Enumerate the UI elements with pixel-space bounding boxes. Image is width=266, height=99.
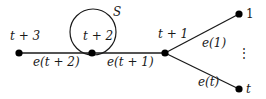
node-leaf-t xyxy=(235,85,242,92)
node-t-plus-3 xyxy=(15,49,22,56)
node-label-leaf-t: t xyxy=(246,82,251,96)
edge-label-e-t-plus-2: e(t + 2) xyxy=(33,55,80,69)
node-label-t-plus-1: t + 1 xyxy=(158,27,188,41)
edge-label-e-t-plus-1: e(t + 1) xyxy=(107,55,154,69)
node-label-t-plus-2: t + 2 xyxy=(83,29,113,43)
node-t-plus-1 xyxy=(161,49,168,56)
set-s-label: S xyxy=(113,5,121,19)
node-leaf-1 xyxy=(235,10,242,17)
edge-label-e-t: e(t) xyxy=(198,75,220,89)
vertical-ellipsis: ⋮ xyxy=(238,46,250,60)
node-t-plus-2 xyxy=(88,49,95,56)
edge-label-e-1: e(1) xyxy=(202,36,226,50)
tree-diagram: S t + 3 t + 2 t + 1 1 t e(t + 2) e(t + 1… xyxy=(0,0,266,99)
node-label-leaf-1: 1 xyxy=(246,7,254,21)
node-label-t-plus-3: t + 3 xyxy=(10,29,41,43)
